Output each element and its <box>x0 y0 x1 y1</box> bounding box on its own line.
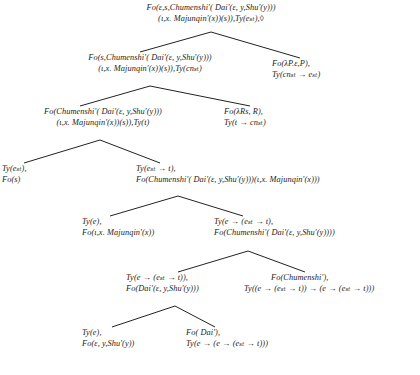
edge-l4-left <box>110 196 178 216</box>
edge-l5-left <box>178 251 248 272</box>
node-level7-right: Fo( Dai'), Ty(e → (e → (eₛₜ → t))) <box>186 327 346 350</box>
node-level5-left: Ty(e), Fo(ι,x. Majunqin'(x)) <box>82 216 222 239</box>
node-level6-right-line-2: Ty((e → (eₛₜ → t)) → (e → (eₛₜ → t))) <box>244 283 374 294</box>
node-level5-left-line-1: Ty(e), <box>82 216 222 227</box>
node-level3-left-line-2: (ι,x. Majunqin'(x))(s)),Ty(t) <box>6 117 200 128</box>
edge-l4-right <box>178 196 243 216</box>
node-root: Fo(ε,s,Chumenshi'( Dai'(ε, y,Shu'(y))) (… <box>113 2 309 25</box>
edge-l6-right <box>175 306 215 327</box>
edge-l6-left <box>112 306 175 327</box>
node-level3-left-line-1: Fo(Chumenshi'( Dai'(ε, y,Shu'(y))) <box>6 106 200 117</box>
node-level5-right: Ty(e → (eₛₜ → t), Fo(Chumenshi'( Dai'(ε,… <box>214 216 414 239</box>
node-level2-right-line-2: Ty(cnₛₜ → eₛₜ) <box>272 69 412 80</box>
node-level5-left-line-2: Fo(ι,x. Majunqin'(x)) <box>82 227 222 238</box>
node-level4-left: Ty(eₛₜ), Fo(s) <box>2 163 92 186</box>
node-level3-right-line-2: Ty(t → cnₛₜ) <box>224 117 364 128</box>
node-root-line-2: (ι,x. Majunqin'(x))(s)),Ty(eₛₜ),◊ <box>113 13 309 24</box>
node-level2-right-line-1: Fo(λP.ε,P), <box>272 58 412 69</box>
node-level4-right: Ty(eₛₜ → t), Fo(Chumenshi'( Dai'(ε, y,Sh… <box>136 163 416 186</box>
node-level3-right-line-1: Fo(λRs, R), <box>224 106 364 117</box>
node-root-line-1: Fo(ε,s,Chumenshi'( Dai'(ε, y,Shu'(y))) <box>113 2 309 13</box>
node-level2-left-line-1: Fo(s,Chumenshi'( Dai'(ε, y,Shu'(y))) <box>48 52 252 63</box>
node-level4-right-line-1: Ty(eₛₜ → t), <box>136 163 416 174</box>
node-level3-right: Fo(λRs, R), Ty(t → cnₛₜ) <box>224 106 364 129</box>
edge-l5-right <box>248 251 305 272</box>
node-level6-right-line-1: Fo(Chumenshi'), <box>271 272 420 283</box>
node-level2-left-line-2: (ι,x. Majunqin'(x))(s)),Ty(cnₛₜ) <box>48 63 252 74</box>
edge-l3-left <box>24 140 100 163</box>
node-level5-right-line-2: Fo(Chumenshi'( Dai'(ε, y,Shu'(y)))) <box>214 227 414 238</box>
node-level5-right-line-1: Ty(e → (eₛₜ → t), <box>214 216 414 227</box>
node-level3-left: Fo(Chumenshi'( Dai'(ε, y,Shu'(y))) (ι,x.… <box>6 106 200 129</box>
node-level7-right-line-2: Ty(e → (e → (eₛₜ → t))) <box>186 338 346 349</box>
node-level2-right: Fo(λP.ε,P), Ty(cnₛₜ → eₛₜ) <box>272 58 412 81</box>
node-level7-right-line-1: Fo( Dai'), <box>186 327 346 338</box>
node-level6-right: Fo(Chumenshi'), Ty((e → (eₛₜ → t)) → (e … <box>271 272 420 283</box>
node-level4-left-line-2: Fo(s) <box>2 174 92 185</box>
node-level4-right-line-2: Fo(Chumenshi'( Dai'(ε, y,Shu'(y)))(ι,x. … <box>136 174 416 185</box>
edge-root-left <box>140 32 211 52</box>
node-level2-left: Fo(s,Chumenshi'( Dai'(ε, y,Shu'(y))) (ι,… <box>48 52 252 75</box>
edge-l2-right <box>150 86 250 106</box>
node-level6-left-line-1: Ty(e → (eₛₜ → t)), <box>126 272 266 283</box>
edge-l3-right <box>100 140 160 163</box>
parse-tree-figure: Fo(ε,s,Chumenshi'( Dai'(ε, y,Shu'(y))) (… <box>0 0 420 375</box>
edge-l2-left <box>80 86 150 106</box>
node-level4-left-line-1: Ty(eₛₜ), <box>2 163 92 174</box>
